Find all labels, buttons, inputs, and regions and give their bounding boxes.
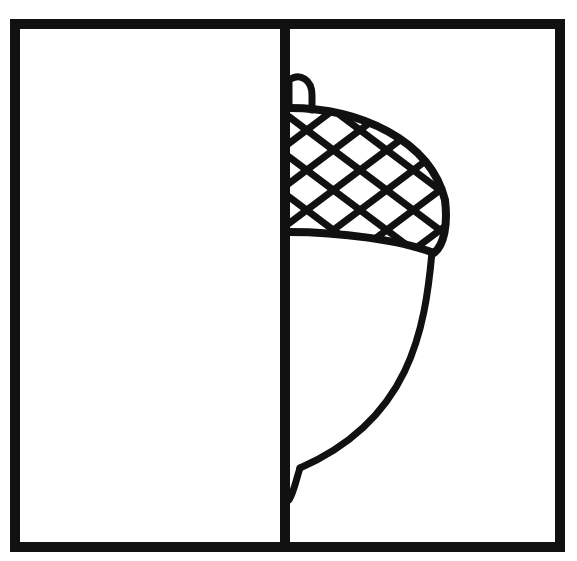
left-drawing-area[interactable]: [20, 29, 279, 542]
acorn-nut-tip: [289, 468, 300, 500]
symmetry-worksheet: Symmetry drawing worksheet - complete th…: [0, 0, 577, 561]
acorn-nut-outline: [300, 252, 432, 468]
